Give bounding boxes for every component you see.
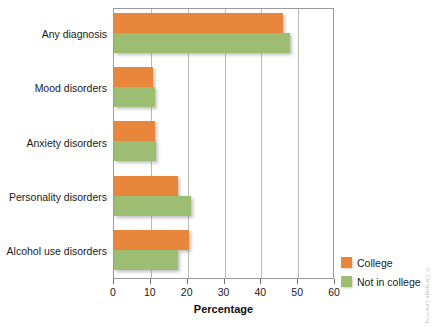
y-axis-label: Any diagnosis (0, 28, 107, 40)
bar-not-in-college[interactable] (114, 141, 156, 161)
x-axis-tick (260, 279, 261, 284)
x-axis-tick (297, 279, 298, 284)
chart-legend: CollegeNot in college (341, 254, 429, 292)
x-axis-tick (334, 279, 335, 284)
bar-chart-figure: Any diagnosisMood disordersAnxiety disor… (0, 0, 432, 327)
bar-college[interactable] (114, 121, 155, 141)
y-axis-label: Anxiety disorders (0, 137, 107, 149)
bar-college[interactable] (114, 13, 283, 33)
bar-not-in-college[interactable] (114, 33, 290, 53)
x-axis-tick-label: 20 (172, 286, 202, 298)
x-axis-tick (187, 279, 188, 284)
legend-label: Not in college (357, 276, 421, 288)
bar-college[interactable] (114, 176, 178, 196)
y-axis-label: Alcohol use disorders (0, 245, 107, 257)
plot-area (113, 8, 334, 279)
legend-swatch-icon (341, 257, 352, 268)
bar-group (114, 63, 333, 117)
y-axis-label: Mood disorders (0, 82, 107, 94)
bar-group (114, 117, 333, 171)
x-axis-tick-label: 40 (245, 286, 275, 298)
bar-not-in-college[interactable] (114, 196, 191, 216)
copyright-credit: © Cengage Learning (425, 267, 431, 323)
legend-item[interactable]: Not in college (341, 273, 429, 290)
x-axis-tick (224, 279, 225, 284)
bar-college[interactable] (114, 230, 189, 250)
legend-item[interactable]: College (341, 254, 429, 271)
legend-label: College (357, 257, 393, 269)
bar-group (114, 226, 333, 280)
x-axis-tick (150, 279, 151, 284)
x-axis-tick-label: 50 (282, 286, 312, 298)
legend-swatch-icon (341, 276, 352, 287)
y-axis-labels: Any diagnosisMood disordersAnxiety disor… (0, 8, 107, 279)
x-axis-tick-label: 10 (135, 286, 165, 298)
x-axis-tick-label: 30 (209, 286, 239, 298)
bar-group (114, 172, 333, 226)
y-axis-label: Personality disorders (0, 191, 107, 203)
bar-college[interactable] (114, 67, 153, 87)
bar-group (114, 9, 333, 63)
x-axis-tick-label: 0 (98, 286, 128, 298)
x-axis-title: Percentage (113, 303, 334, 315)
bar-not-in-college[interactable] (114, 87, 155, 107)
x-axis-tick (113, 279, 114, 284)
bar-not-in-college[interactable] (114, 250, 178, 270)
